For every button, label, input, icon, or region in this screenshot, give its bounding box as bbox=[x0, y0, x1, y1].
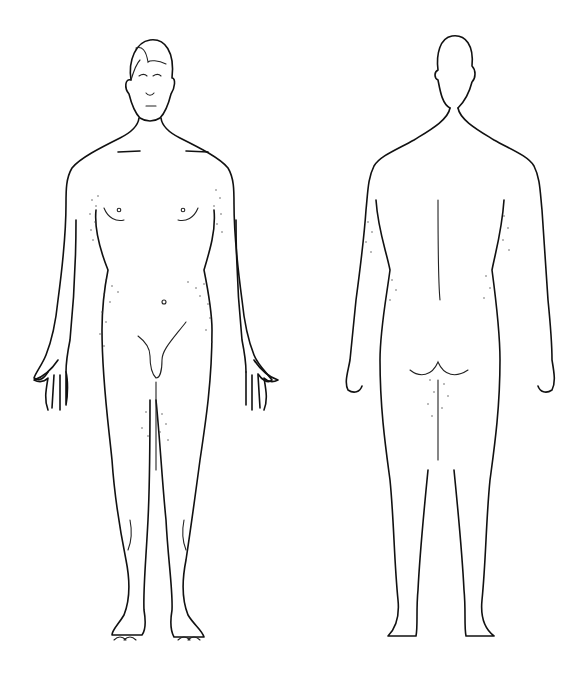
back-view bbox=[346, 36, 554, 636]
front-view bbox=[34, 40, 278, 640]
buttocks bbox=[410, 362, 468, 375]
back-head bbox=[435, 36, 475, 108]
spine bbox=[438, 200, 440, 300]
body-outline-diagram bbox=[0, 0, 569, 689]
front-head bbox=[126, 40, 175, 121]
navel bbox=[162, 300, 166, 304]
front-chest bbox=[104, 208, 198, 221]
back-torso bbox=[346, 108, 450, 392]
front-torso bbox=[34, 118, 139, 380]
